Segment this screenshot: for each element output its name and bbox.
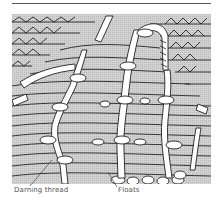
label-darning-thread: Darning thread — [14, 186, 68, 194]
darning-illustration — [0, 0, 223, 209]
fabric — [12, 14, 211, 185]
label-floats: Floats — [118, 186, 140, 194]
